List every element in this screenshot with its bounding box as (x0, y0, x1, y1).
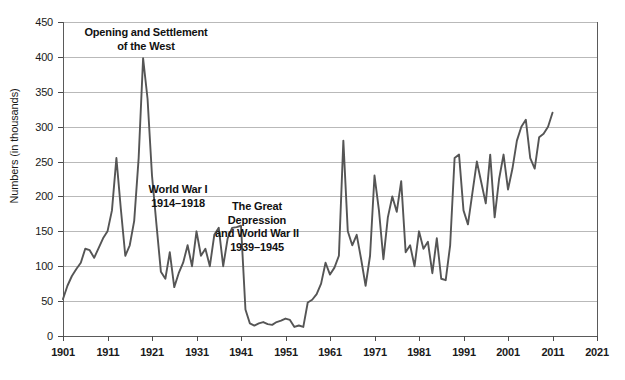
immigration-line-chart: Numbers (in thousands) 05010015020025030… (0, 0, 625, 380)
annotation-opening-west-line1: Opening and Settlement (60, 26, 232, 40)
annotation-depression-line1: The Great (196, 200, 318, 214)
annotation-opening-west-line2: of the West (60, 40, 232, 54)
annotation-depression-line2: Depression (196, 214, 318, 228)
annotation-depression-line4: 1939–1945 (196, 241, 318, 255)
series-line (0, 0, 625, 380)
annotation-opening-west: Opening and Settlement of the West (60, 26, 232, 53)
annotation-depression-line3: and World War II (196, 227, 318, 241)
annotation-wwi-line1: World War I (122, 183, 234, 197)
annotation-depression-wwii: The Great Depression and World War II 19… (196, 200, 318, 254)
